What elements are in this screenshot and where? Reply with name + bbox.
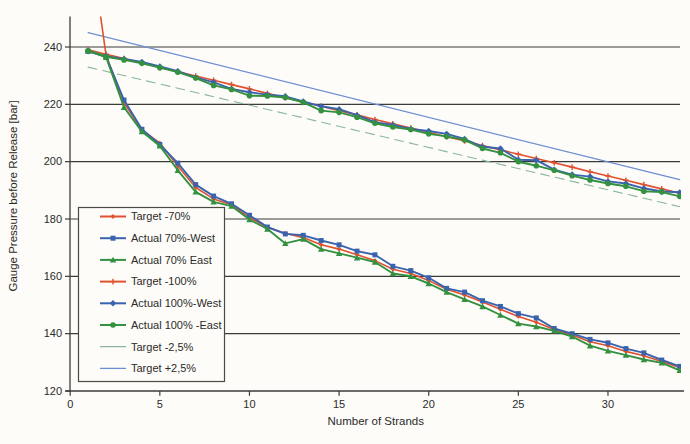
series-target-2-5 — [88, 67, 680, 207]
x-tick-label: 10 — [243, 398, 255, 410]
legend-label: Actual 100% -East — [131, 319, 222, 331]
x-axis-title: Number of Strands — [327, 415, 424, 427]
x-tick-label: 20 — [423, 398, 435, 410]
chart-figure: 120140160180200220240051015202530Target … — [0, 0, 690, 444]
y-tick-label: 120 — [44, 385, 62, 397]
x-tick-label: 5 — [157, 398, 163, 410]
legend-label: Actual 100%-West — [131, 297, 221, 309]
y-tick-label: 160 — [44, 270, 62, 282]
legend-label: Target -2,5% — [131, 341, 194, 353]
x-tick-label: 25 — [512, 398, 524, 410]
legend-label: Target -70% — [131, 210, 191, 222]
y-tick-label: 180 — [44, 213, 62, 225]
legend-label: Target +2,5% — [131, 362, 196, 374]
x-tick-label: 15 — [333, 398, 345, 410]
x-tick-label: 30 — [602, 398, 614, 410]
y-tick-label: 140 — [44, 327, 62, 339]
legend-label: Actual 70%-West — [131, 232, 215, 244]
legend: Target -70%Actual 70%-WestActual 70% Eas… — [79, 208, 225, 382]
series-target-2-5 — [88, 33, 680, 180]
x-tick-label: 0 — [67, 398, 73, 410]
y-tick-labels: 120140160180200220240 — [44, 41, 62, 397]
pressure-vs-strands-chart: 120140160180200220240051015202530Target … — [0, 0, 690, 444]
y-axis-title: Gauge Pressure before Release [bar] — [7, 100, 19, 291]
legend-label: Actual 70% East — [131, 254, 212, 266]
y-tick-label: 240 — [44, 41, 62, 53]
x-tick-labels: 051015202530 — [67, 398, 614, 410]
y-tick-label: 200 — [44, 155, 62, 167]
y-tick-label: 220 — [44, 98, 62, 110]
legend-label: Target -100% — [131, 275, 197, 287]
